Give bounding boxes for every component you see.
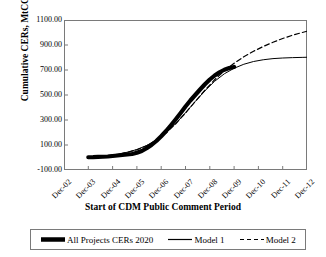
chart-figure: Cumulative CERs, MtCO2e 1100.00900.00700…	[0, 0, 326, 257]
x-axis-title: Start of CDM Public Comment Period	[0, 202, 326, 212]
legend-entry[interactable]: Model 1	[167, 235, 224, 245]
legend-label: Model 1	[194, 235, 224, 245]
legend-entry[interactable]: Model 2	[239, 235, 296, 245]
legend-entry[interactable]: All Projects CERs 2020	[40, 235, 153, 245]
chart-legend: All Projects CERs 2020Model 1Model 2	[30, 229, 306, 250]
legend-label: Model 2	[266, 235, 296, 245]
legend-label: All Projects CERs 2020	[67, 235, 153, 245]
legend-swatch-icon	[167, 235, 193, 244]
legend-swatch-icon	[239, 235, 265, 244]
legend-swatch-icon	[40, 235, 66, 244]
x-axis-tick-labels: Dec-02Dec-03Dec-04Dec-05Dec-06Dec-07Dec-…	[0, 0, 326, 257]
